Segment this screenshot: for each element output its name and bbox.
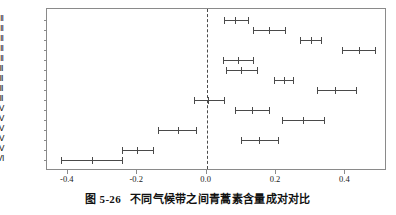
interval-upper-cap xyxy=(278,137,279,144)
y-axis-label: H - Ⅳ xyxy=(0,124,4,133)
interval-lower-cap xyxy=(253,27,254,34)
interval-upper-cap xyxy=(153,147,154,154)
interval-upper-cap xyxy=(253,57,254,64)
confidence-interval-bar xyxy=(317,90,357,91)
interval-upper-cap xyxy=(356,87,357,94)
interval-upper-cap xyxy=(293,77,294,84)
x-axis-tick-label: 0.0 xyxy=(186,174,226,185)
caption-text: 不同气候带之间青蒿素含量成对对比 xyxy=(130,193,311,205)
y-axis-tick xyxy=(44,150,47,151)
y-axis-tick xyxy=(44,120,47,121)
y-axis-label: Ⅳ - Ⅲ xyxy=(0,64,4,73)
point-estimate-marker xyxy=(269,27,270,34)
y-axis-tick xyxy=(44,110,47,111)
interval-lower-cap xyxy=(223,57,224,64)
interval-lower-cap xyxy=(241,137,242,144)
interval-lower-cap xyxy=(274,77,275,84)
interval-upper-cap xyxy=(321,37,322,44)
interval-upper-cap xyxy=(257,67,258,74)
y-axis-label: Ⅳ - Ⅱ xyxy=(0,24,4,33)
y-axis-tick xyxy=(44,60,47,61)
x-axis-tick-label: 0.4 xyxy=(324,174,364,185)
interval-upper-cap xyxy=(285,27,286,34)
figure-caption: 图 5-26不同气候带之间青蒿素含量成对对比 xyxy=(0,192,396,207)
y-axis-label: Ⅵ - Ⅳ xyxy=(0,114,4,123)
plot-area xyxy=(46,8,386,170)
point-estimate-marker xyxy=(92,157,93,164)
interval-lower-cap xyxy=(235,107,236,114)
y-axis-label: Ⅵ - Ⅴ xyxy=(0,134,4,143)
point-estimate-marker xyxy=(238,57,239,64)
y-axis-label: Ⅵ - Ⅲ xyxy=(0,84,4,93)
plot-inner xyxy=(47,9,385,169)
point-estimate-marker xyxy=(359,47,360,54)
y-axis-tick xyxy=(44,70,47,71)
y-axis-tick xyxy=(44,160,47,161)
point-estimate-marker xyxy=(208,97,209,104)
point-estimate-marker xyxy=(178,127,179,134)
y-axis-label: Ⅲ - Ⅱ xyxy=(0,14,4,23)
interval-lower-cap xyxy=(122,147,123,154)
y-axis-label: Ⅵ - Ⅱ xyxy=(0,44,4,53)
interval-lower-cap xyxy=(194,97,195,104)
caption-number: 图 5-26 xyxy=(85,193,121,205)
y-axis-label: H - Ⅲ xyxy=(0,94,4,103)
interval-lower-cap xyxy=(226,67,227,74)
interval-lower-cap xyxy=(61,157,62,164)
y-axis-tick xyxy=(44,20,47,21)
interval-lower-cap xyxy=(158,127,159,134)
point-estimate-marker xyxy=(241,67,242,74)
point-estimate-marker xyxy=(137,147,138,154)
interval-lower-cap xyxy=(282,117,283,124)
point-estimate-marker xyxy=(252,107,253,114)
interval-upper-cap xyxy=(269,107,270,114)
interval-upper-cap xyxy=(375,47,376,54)
interval-lower-cap xyxy=(224,17,225,24)
comparison-row xyxy=(47,155,385,166)
point-estimate-marker xyxy=(235,17,236,24)
y-axis-label: H - Ⅱ xyxy=(0,54,4,63)
y-axis-tick xyxy=(44,40,47,41)
y-axis-tick xyxy=(44,130,47,131)
interval-lower-cap xyxy=(317,87,318,94)
x-axis-tick-label: 0.2 xyxy=(255,174,295,185)
point-estimate-marker xyxy=(303,117,304,124)
interval-lower-cap xyxy=(342,47,343,54)
figure-container: -0.4-0.20.00.20.4 图 5-26不同气候带之间青蒿素含量成对对比… xyxy=(0,0,396,215)
x-axis-tick-label: -0.4 xyxy=(47,174,87,185)
y-axis-label: H - Ⅵ xyxy=(0,154,4,163)
y-axis-tick xyxy=(44,100,47,101)
y-axis-label: Ⅴ - Ⅱ xyxy=(0,34,4,43)
interval-upper-cap xyxy=(122,157,123,164)
point-estimate-marker xyxy=(311,37,312,44)
interval-upper-cap xyxy=(224,97,225,104)
interval-lower-cap xyxy=(300,37,301,44)
interval-upper-cap xyxy=(324,117,325,124)
confidence-interval-bar xyxy=(158,130,196,131)
x-axis-tick-label: -0.2 xyxy=(116,174,156,185)
y-axis-label: Ⅴ - Ⅲ xyxy=(0,74,4,83)
y-axis-tick xyxy=(44,50,47,51)
y-axis-label: Ⅴ - Ⅳ xyxy=(0,104,4,113)
y-axis-tick xyxy=(44,30,47,31)
point-estimate-marker xyxy=(284,77,285,84)
y-axis-label: H - Ⅴ xyxy=(0,144,4,153)
interval-upper-cap xyxy=(248,17,249,24)
point-estimate-marker xyxy=(259,137,260,144)
y-axis-tick xyxy=(44,80,47,81)
interval-upper-cap xyxy=(196,127,197,134)
y-axis-tick xyxy=(44,140,47,141)
y-axis-tick xyxy=(44,90,47,91)
point-estimate-marker xyxy=(335,87,336,94)
